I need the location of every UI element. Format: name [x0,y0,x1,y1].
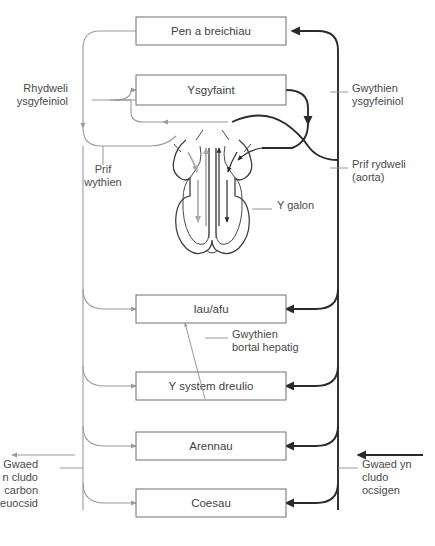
annotation-line: deuocsid [0,497,38,509]
annotation-line: Prif rydweli [352,158,406,170]
annotation-line: ocsigen [362,484,400,496]
vein-branch-liver [83,289,136,309]
double-circulation-svg: Pen a breichiauYsgyfaintIau/afuY system … [0,0,435,546]
organ-box-liver[interactable]: Iau/afu [136,295,286,323]
pulmonary-artery-to-lungs [115,90,136,100]
annotation-pulmonary_artery: Rhydweliysgyfeiniol [17,82,68,107]
organ-box-head_arms[interactable]: Pen a breichiau [136,17,286,45]
aorta-arch [232,115,338,160]
annotation-line: n cludo [3,471,38,483]
heart-left-atrium [190,146,201,178]
organ-box-label-legs: Coesau [191,497,231,509]
artery-branch-legs [286,483,338,503]
heart-vessel-stub-a [196,130,203,140]
organ-box-kidneys[interactable]: Arennau [136,432,286,460]
annotation-pulmonary_vein: Gwythienysgyfeiniol [352,82,403,107]
heart-right-ventricle-wall [216,148,242,244]
annotation-line: Gwythien [352,82,398,94]
annotation-line: wythien [83,176,121,188]
annotation-deoxy_key: Gwaedn cludocarbondeuocsid [0,458,38,509]
annotation-line: carbon [4,484,38,496]
vena-cava-trunk [83,128,176,146]
heart-illustration [173,130,262,254]
artery-branch-kidneys [286,426,338,446]
annotation-line: cludo [362,471,388,483]
organ-box-legs[interactable]: Coesau [136,489,286,517]
artery-branch-liver [286,289,338,309]
annotation-line: Gwythien [232,328,278,340]
annotation-aorta: Prif rydweli(aorta) [352,158,406,183]
organ-boxes: Pen a breichiauYsgyfaintIau/afuY system … [136,17,286,517]
flow-arrow-oxy-in [228,152,237,172]
annotation-leaders [12,92,423,468]
annotation-line: bortal hepatig [232,341,299,353]
annotation-line: Gwaed [3,458,38,470]
annotation-vena_cava: Prifwythien [83,163,121,188]
heart-outline [173,140,252,254]
annotation-line: ysgyfeiniol [17,95,68,107]
flow-arrow-deoxy-in [188,152,197,172]
circulation-diagram-canvas: Pen a breichiauYsgyfaintIau/afuY system … [0,0,435,546]
organ-box-digestive[interactable]: Y system dreulio [136,372,286,400]
organ-box-label-kidneys: Arennau [189,440,232,452]
artery-branch-digestive [286,366,338,386]
pulmonary-vein-from-lungs [286,90,308,124]
annotation-line: ysgyfeiniol [352,95,403,107]
organ-box-label-lungs: Ysgyfaint [187,84,235,96]
vein-branch-legs [83,483,136,503]
vein-branch-digestive [83,366,136,386]
organ-box-lungs[interactable]: Ysgyfaint [136,75,286,105]
annotation-line: Rhydweli [23,82,68,94]
heart-left-ventricle-wall [183,148,209,244]
organ-box-label-liver: Iau/afu [193,303,228,315]
annotation-line: Prif [95,163,112,175]
annotation-line: (aorta) [352,171,384,183]
organ-box-label-head_arms: Pen a breichiau [171,25,251,37]
vein-branch-kidneys [83,426,136,446]
vein-head-to-lungs [83,31,136,128]
organ-box-label-digestive: Y system dreulio [169,380,254,392]
heart-vessel-stub-b [222,130,229,140]
aorta-to-head [292,31,338,118]
annotation-line: Gwaed yn [362,458,412,470]
heart-right-atrium [224,146,235,178]
annotation-oxy_key: Gwaed yncludoocsigen [362,458,412,496]
annotation-heart: Y galon [277,199,314,211]
annotation-hepatic_portal: Gwythienbortal hepatig [232,328,299,353]
annotation-line: Y galon [277,199,314,211]
